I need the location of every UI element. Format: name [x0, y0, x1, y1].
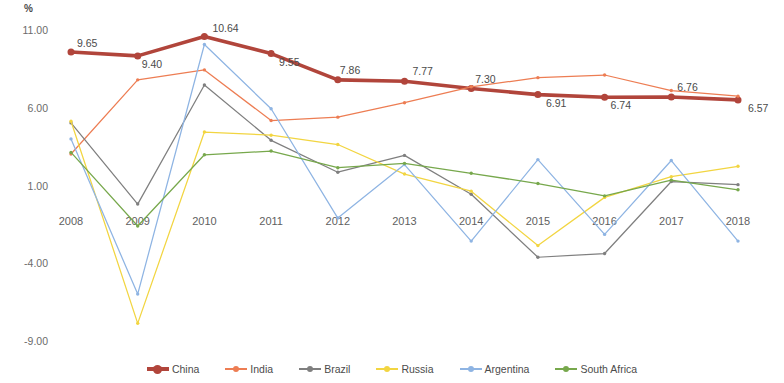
legend-item-south-africa[interactable]: South Africa [555, 363, 637, 375]
data-point [603, 252, 606, 255]
data-point [268, 50, 275, 57]
data-label-2018: 6.57 [748, 102, 768, 114]
data-point [470, 193, 473, 196]
data-point [536, 76, 539, 79]
legend-item-china[interactable]: China [147, 363, 199, 375]
legend-item-argentina[interactable]: Argentina [460, 363, 530, 375]
data-point [601, 94, 608, 101]
data-point [670, 175, 673, 178]
data-point [269, 139, 272, 142]
legend-label: Brazil [324, 363, 350, 375]
data-label-2014: 7.30 [475, 73, 495, 85]
data-label-2016: 6.74 [611, 99, 631, 111]
data-point [470, 189, 473, 192]
data-point [470, 85, 473, 88]
legend-label: South Africa [580, 363, 637, 375]
data-point [670, 178, 673, 181]
data-point [670, 159, 673, 162]
data-point [336, 170, 339, 173]
data-label-2013: 7.77 [413, 65, 433, 77]
legend-label: India [250, 363, 273, 375]
data-point [336, 143, 339, 146]
data-point [68, 48, 75, 55]
data-point [336, 166, 339, 169]
legend-label: Russia [401, 363, 433, 375]
data-label-2015: 6.91 [546, 97, 566, 109]
series-russia [69, 119, 739, 325]
data-label-2012: 7.86 [340, 64, 360, 76]
legend-item-india[interactable]: India [225, 363, 273, 375]
data-point [203, 68, 206, 71]
data-point [69, 119, 72, 122]
data-point [736, 165, 739, 168]
data-point [536, 182, 539, 185]
data-point [203, 130, 206, 133]
series-china [68, 33, 742, 103]
data-point [668, 93, 675, 100]
data-label-2009: 9.40 [142, 58, 162, 70]
data-point [136, 322, 139, 325]
data-point [470, 172, 473, 175]
data-point [269, 107, 272, 110]
data-point [269, 133, 272, 136]
legend-swatch-icon [299, 365, 321, 374]
data-point [136, 292, 139, 295]
legend-swatch-icon [376, 365, 398, 374]
data-point [269, 119, 272, 122]
data-point [134, 52, 141, 59]
data-point [403, 101, 406, 104]
series-line [71, 37, 738, 100]
data-label-2011: 9.55 [279, 56, 299, 68]
data-point [136, 224, 139, 227]
data-point [334, 76, 341, 83]
data-point [203, 83, 206, 86]
legend-item-russia[interactable]: Russia [376, 363, 433, 375]
data-point [603, 194, 606, 197]
data-point [336, 216, 339, 219]
chart-legend: ChinaIndiaBrazilRussiaArgentinaSouth Afr… [0, 359, 784, 379]
legend-swatch-icon [555, 365, 577, 374]
data-point [534, 91, 541, 98]
data-point [269, 149, 272, 152]
data-label-2010: 10.64 [212, 22, 238, 34]
data-point [403, 162, 406, 165]
legend-label: China [172, 363, 199, 375]
data-point [603, 73, 606, 76]
data-point [670, 89, 673, 92]
data-point [736, 183, 739, 186]
data-point [536, 158, 539, 161]
data-point [403, 172, 406, 175]
data-point [536, 244, 539, 247]
series-line [71, 121, 738, 323]
legend-item-brazil[interactable]: Brazil [299, 363, 350, 375]
legend-swatch-icon [225, 365, 247, 374]
data-point [536, 256, 539, 259]
data-point [336, 115, 339, 118]
data-point [203, 153, 206, 156]
data-point [203, 43, 206, 46]
data-point [136, 202, 139, 205]
legend-swatch-icon [147, 365, 169, 374]
data-point [736, 188, 739, 191]
data-point [69, 137, 72, 140]
data-point [736, 94, 739, 97]
line-chart: % 11.006.001.00-4.00-9.00 20082009201020… [0, 0, 784, 383]
data-point [470, 239, 473, 242]
data-point [201, 33, 208, 40]
plot-area [0, 0, 784, 383]
data-point [136, 78, 139, 81]
data-point [403, 154, 406, 157]
data-point [69, 151, 72, 154]
data-point [603, 233, 606, 236]
data-point [401, 78, 408, 85]
data-label-2017: 6.76 [677, 81, 697, 93]
data-point [736, 239, 739, 242]
legend-label: Argentina [485, 363, 530, 375]
data-label-2008: 9.65 [77, 37, 97, 49]
legend-swatch-icon [460, 365, 482, 374]
